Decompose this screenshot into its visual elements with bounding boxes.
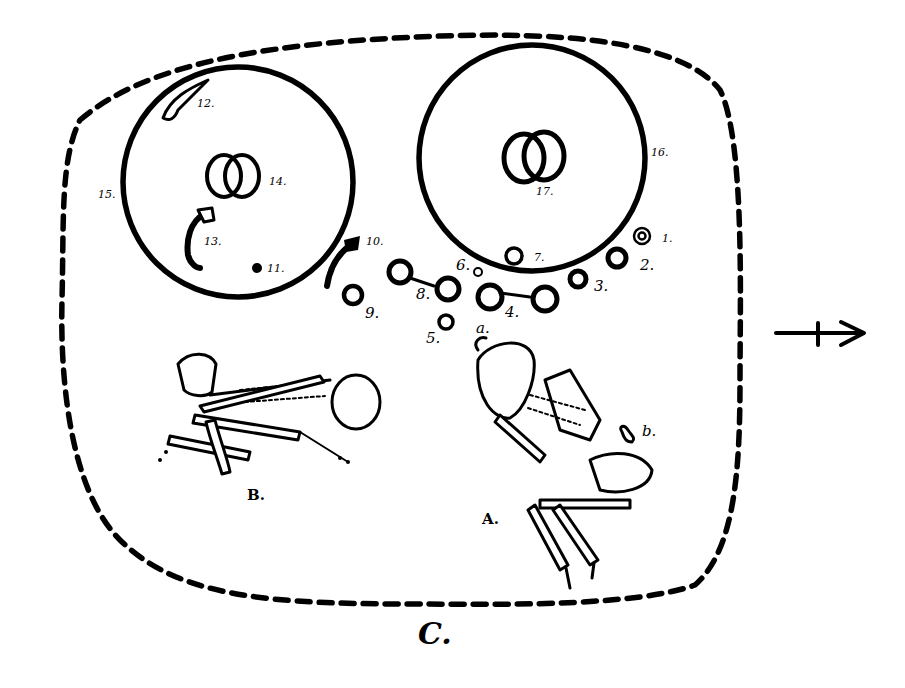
find-5 xyxy=(439,315,453,329)
interlocking-rings-14 xyxy=(207,155,259,197)
circle-16 xyxy=(419,45,645,271)
label-5: 5. xyxy=(426,329,440,347)
label-7: 7. xyxy=(534,251,545,264)
find-7 xyxy=(506,248,522,264)
label-enclosure-c: C. xyxy=(418,616,452,651)
label-3: 3. xyxy=(594,277,608,295)
label-6: 6. xyxy=(456,256,470,274)
skeleton-a xyxy=(476,338,652,588)
label-4: 4. xyxy=(504,303,519,321)
burial-plan-diagram: 15. 14. 16. 17. 1. 2. 3. 4. 5. 6. 7. 8. … xyxy=(0,0,905,688)
label-14: 14. xyxy=(269,175,287,188)
find-6 xyxy=(474,268,482,276)
label-10: 10. xyxy=(366,235,384,248)
label-17: 17. xyxy=(536,185,554,198)
label-1: 1. xyxy=(662,232,673,245)
find-1 xyxy=(634,228,650,244)
arrow-right-crossed-icon xyxy=(776,322,864,345)
curved-object-13 xyxy=(188,214,204,268)
label-2: 2. xyxy=(639,256,654,274)
label-skeleton-a: A. xyxy=(481,510,499,528)
skeleton-b xyxy=(158,354,380,474)
find-9 xyxy=(344,286,362,304)
small-disc-11 xyxy=(252,263,262,273)
label-9: 9. xyxy=(365,304,379,322)
marker-b-object xyxy=(621,426,634,442)
label-15: 15. xyxy=(98,188,116,201)
find-2 xyxy=(608,249,626,267)
circle-15 xyxy=(123,67,353,297)
label-skeleton-b: B. xyxy=(247,486,265,504)
curved-object-10-head xyxy=(344,236,360,252)
label-8: 8. xyxy=(416,285,430,303)
find-3 xyxy=(570,271,586,287)
label-marker-b: b. xyxy=(642,422,656,440)
label-13: 13. xyxy=(204,235,222,248)
label-16: 16. xyxy=(651,146,669,159)
interlocking-rings-17 xyxy=(504,132,564,182)
marker-a-arc xyxy=(476,338,486,350)
label-marker-a: a. xyxy=(476,319,490,337)
label-11: 11. xyxy=(267,262,285,275)
label-12: 12. xyxy=(197,97,215,110)
